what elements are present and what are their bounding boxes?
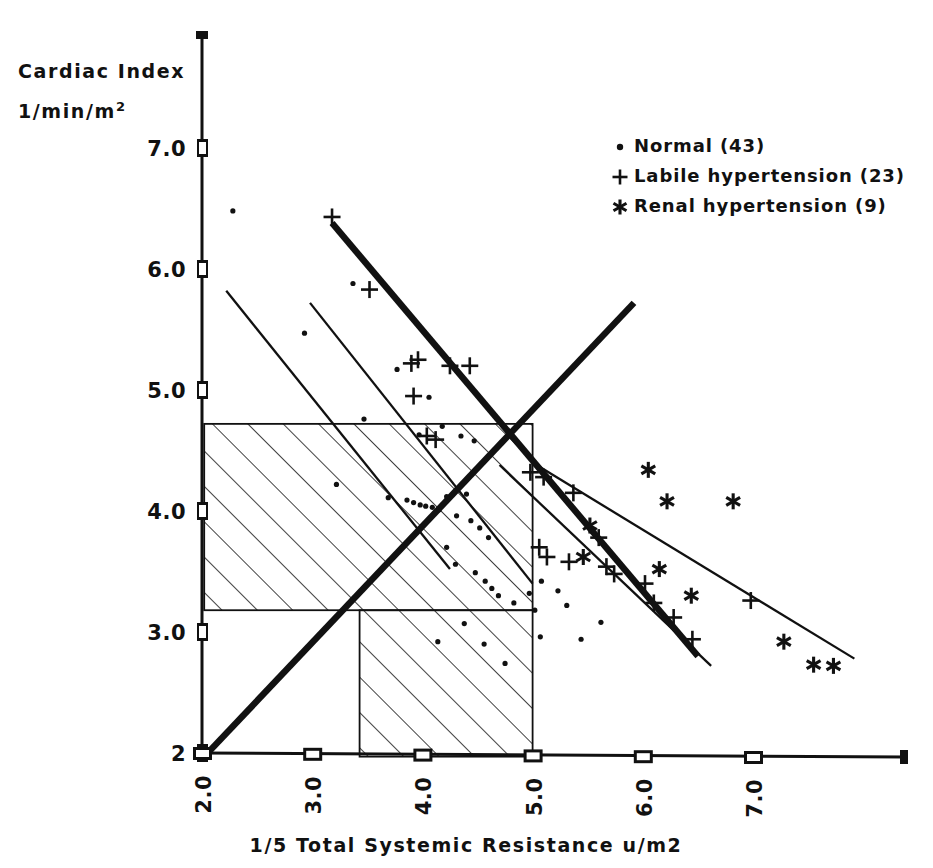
data-point-dot <box>436 507 441 512</box>
y-tick-label: 5.0 <box>147 379 186 403</box>
y-axis-title-units: 1/min/m <box>18 100 116 122</box>
data-point-dot <box>435 639 440 644</box>
y-axis-tick-labels: 7.06.05.04.03.02 <box>147 137 186 766</box>
data-point-dot <box>532 608 537 613</box>
x-axis-title: 1/5 Total Systemic Resistance u/m2 <box>250 834 683 856</box>
legend-item-plus: Labile hypertension (23) <box>613 165 905 186</box>
data-point-dot <box>511 600 516 605</box>
data-point-plus <box>742 592 759 609</box>
data-point-dot <box>496 593 501 598</box>
data-point-dot <box>440 424 445 429</box>
data-point-asterisk <box>777 634 791 650</box>
data-point-dot <box>423 504 428 509</box>
x-tick-mark-inner <box>196 750 209 757</box>
y-tick-mark-inner <box>199 505 206 517</box>
lower-normal-range-box <box>360 610 533 756</box>
legend-label: Renal hypertension (9) <box>634 195 887 216</box>
y-tick-label: 2 <box>171 742 186 766</box>
y-tick-label: 4.0 <box>147 500 186 524</box>
data-point-plus <box>560 553 577 570</box>
data-point-dot <box>386 495 391 500</box>
data-point-dot <box>426 395 431 400</box>
data-point-dot <box>489 586 494 591</box>
data-point-dot <box>502 661 507 666</box>
data-point-dot <box>230 208 235 213</box>
y-axis-title-line1: Cardiac Index <box>18 60 185 82</box>
y-tick-mark-inner <box>199 384 206 396</box>
data-point-dot <box>418 502 423 507</box>
data-point-dot <box>617 144 623 150</box>
legend-item-asterisk: Renal hypertension (9) <box>614 195 887 216</box>
x-tick-mark-inner <box>747 754 760 761</box>
x-tick-mark-inner <box>527 752 540 759</box>
x-tick-label: 2.0 <box>192 775 216 814</box>
legend: Normal (43)Labile hypertension (23)Renal… <box>613 135 905 216</box>
data-point-dot <box>430 505 435 510</box>
data-point-dot <box>458 433 463 438</box>
data-point-asterisk <box>614 200 627 215</box>
x-tick-label: 5.0 <box>523 777 547 816</box>
data-point-dot <box>394 367 399 372</box>
data-point-dot <box>444 494 449 499</box>
y-tick-label: 3.0 <box>147 621 186 645</box>
y-axis-title-line2: 1/min/m2 <box>18 99 127 122</box>
data-point-plus <box>613 170 628 185</box>
y-axis-title-superscript: 2 <box>116 99 127 114</box>
data-point-plus <box>461 357 478 374</box>
data-point-dot <box>477 525 482 530</box>
data-point-dot <box>453 562 458 567</box>
data-point-asterisk <box>576 549 590 565</box>
x-axis-tick-labels: 2.03.04.05.06.07.0 <box>192 775 767 818</box>
y-tick-label: 7.0 <box>147 137 186 161</box>
y-tick-label: 6.0 <box>147 258 186 282</box>
data-point-asterisk <box>827 658 841 674</box>
data-point-dot <box>404 498 409 503</box>
data-point-dot <box>462 621 467 626</box>
data-point-dot <box>527 591 532 596</box>
data-point-plus <box>324 208 341 225</box>
data-point-dot <box>472 438 477 443</box>
x-tick-label: 7.0 <box>743 779 767 818</box>
data-point-dot <box>468 518 473 523</box>
data-point-dot <box>454 513 459 518</box>
data-point-asterisk <box>641 462 655 478</box>
y-tick-mark-inner <box>199 626 206 638</box>
data-point-dot <box>361 416 366 421</box>
data-point-dot <box>473 570 478 575</box>
legend-item-dot: Normal (43) <box>617 135 765 156</box>
data-point-dot <box>302 331 307 336</box>
data-point-dot <box>350 281 355 286</box>
data-point-plus <box>538 548 555 565</box>
x-tick-label: 3.0 <box>302 776 326 815</box>
series-asterisk <box>576 462 840 674</box>
data-point-dot <box>555 588 560 593</box>
data-point-dot <box>464 491 469 496</box>
x-tick-mark-inner <box>637 753 650 760</box>
data-point-asterisk <box>807 657 821 673</box>
data-point-dot <box>411 500 416 505</box>
data-point-dot <box>564 603 569 608</box>
legend-label: Normal (43) <box>634 135 765 156</box>
y-tick-mark-inner <box>199 142 206 154</box>
data-point-asterisk <box>652 561 666 577</box>
data-point-dot <box>334 482 339 487</box>
x-tick-label: 4.0 <box>412 777 436 816</box>
x-tick-mark-inner <box>416 752 429 759</box>
data-point-dot <box>444 545 449 550</box>
data-point-asterisk <box>684 588 698 604</box>
data-point-dot <box>486 535 491 540</box>
data-point-dot <box>482 642 487 647</box>
data-point-plus <box>361 281 378 298</box>
legend-label: Labile hypertension (23) <box>634 165 905 186</box>
chart-root: 7.06.05.04.03.02 2.03.04.05.06.07.0 Card… <box>0 0 933 868</box>
data-point-plus <box>405 388 422 405</box>
data-point-dot <box>578 637 583 642</box>
data-point-dot <box>538 634 543 639</box>
data-point-dot <box>539 579 544 584</box>
y-tick-mark-inner <box>199 263 206 275</box>
data-point-dot <box>598 620 603 625</box>
data-point-asterisk <box>726 493 740 509</box>
x-tick-label: 6.0 <box>633 778 657 817</box>
x-tick-mark-inner <box>306 751 319 758</box>
data-point-asterisk <box>660 493 674 509</box>
